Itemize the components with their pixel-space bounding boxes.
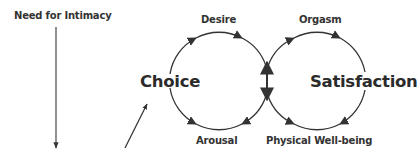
satisfaction-label: Satisfaction: [310, 74, 418, 91]
arousal-label: Arousal: [196, 136, 237, 146]
desire-label: Desire: [201, 15, 236, 25]
choice-input-arrow-icon: [125, 104, 147, 148]
orgasm-label: Orgasm: [299, 15, 342, 25]
need-for-intimacy-label: Need for Intimacy: [14, 11, 111, 21]
choice-label: Choice: [140, 74, 200, 91]
physical-well-being-label: Physical Well-being: [266, 136, 372, 146]
